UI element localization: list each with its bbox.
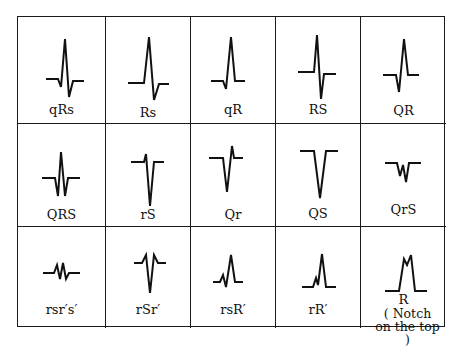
label-rSr: rSr′ [106, 303, 190, 317]
label-Rs: Rs [106, 106, 190, 120]
cell-rsr-s: rsr′s′ [18, 227, 106, 328]
label-rR: rR′ [276, 303, 360, 317]
cell-rS: rS [106, 124, 191, 227]
label-qR: qR [191, 103, 275, 117]
cell-QR: QR [361, 17, 446, 124]
qrs-morphology-grid: qRs Rs qR RS QR QRS rS Qr QS QrS rsr′s′ [17, 16, 445, 327]
cell-RS: RS [276, 17, 361, 124]
cell-R-notch: R ( Notch on the top ) [361, 227, 446, 328]
cell-qRs: qRs [18, 17, 106, 124]
label-rsR: rsR′ [191, 303, 275, 317]
label-R: R [361, 293, 446, 307]
label-QS: QS [276, 207, 360, 221]
cell-QrS: QrS [361, 124, 446, 227]
label-notch-note: ( Notch on the top ) [375, 307, 440, 346]
cell-QS: QS [276, 124, 361, 227]
label-qRs: qRs [18, 103, 105, 117]
cell-qR: qR [191, 17, 276, 124]
label-QR: QR [361, 104, 446, 118]
cell-rR: rR′ [276, 227, 361, 328]
label-QrS: QrS [361, 203, 446, 217]
cell-Qr: Qr [191, 124, 276, 227]
cell-rsR: rsR′ [191, 227, 276, 328]
label-Qr: Qr [191, 208, 275, 222]
cell-Rs: Rs [106, 17, 191, 124]
label-RS: RS [276, 103, 360, 117]
label-QRS: QRS [18, 208, 105, 222]
cell-QRS: QRS [18, 124, 106, 227]
label-rS: rS [106, 208, 190, 222]
label-rsr-s: rsr′s′ [18, 303, 105, 317]
cell-rSr: rSr′ [106, 227, 191, 328]
